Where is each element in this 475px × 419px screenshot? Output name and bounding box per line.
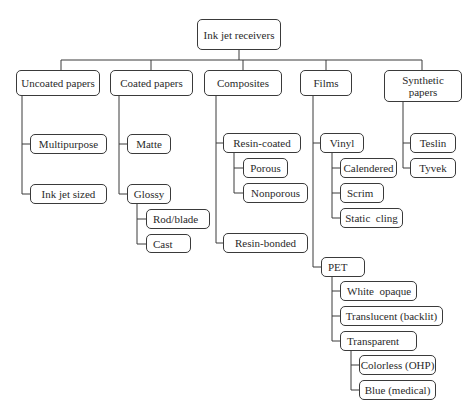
node-glossy: Glossy [127, 184, 171, 204]
node-vinyl: Vinyl [320, 133, 364, 153]
node-rod-blade: Rod/blade [146, 209, 210, 229]
node-matte: Matte [127, 134, 171, 154]
node-pet: PET [321, 257, 365, 277]
node-colorless-ohp: Colorless (OHP) [359, 355, 436, 375]
node-multipurpose: Multipurpose [30, 134, 107, 154]
node-nonporous: Nonporous [243, 183, 308, 203]
node-white-opaque: White opaque [340, 281, 417, 301]
node-uncoated-papers: Uncoated papers [16, 70, 100, 96]
node-cast: Cast [146, 234, 191, 253]
node-calendered: Calendered [340, 158, 397, 178]
node-tyvek: Tyvek [410, 158, 456, 178]
ink-jet-receivers-tree-diagram: Ink jet receivers Uncoated papers Coated… [0, 0, 475, 419]
node-ink-jet-sized: Ink jet sized [30, 184, 107, 204]
node-coated-papers: Coated papers [110, 70, 193, 96]
node-resin-coated: Resin-coated [223, 133, 301, 153]
node-resin-bonded: Resin-bonded [223, 233, 308, 253]
node-blue-medical: Blue (medical) [359, 380, 436, 400]
node-porous: Porous [243, 158, 288, 178]
node-films: Films [300, 70, 352, 96]
node-scrim: Scrim [340, 183, 384, 203]
node-synthetic-papers: Synthetic papers [384, 70, 462, 102]
node-transparent: Transparent [340, 331, 417, 351]
node-composites: Composites [204, 70, 282, 96]
node-teslin: Teslin [410, 133, 456, 153]
node-ink-jet-receivers: Ink jet receivers [197, 19, 281, 50]
node-static-cling: Static cling [340, 208, 403, 228]
node-translucent-backlit: Translucent (backlit) [340, 306, 443, 326]
